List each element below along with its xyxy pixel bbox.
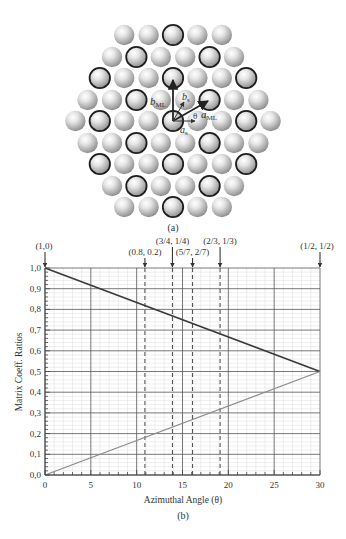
atom	[187, 25, 207, 45]
atom	[187, 68, 207, 88]
atom	[138, 111, 158, 131]
atom	[248, 133, 268, 153]
caption-a: (a)	[167, 222, 178, 234]
y-tick-label: 0,6	[30, 346, 42, 356]
y-tick-label: 0,9	[30, 284, 42, 294]
x-tick-label: 25	[270, 480, 280, 490]
atom	[102, 47, 122, 67]
y-tick-label: 0,5	[30, 367, 42, 377]
y-tick-label: 1,0	[30, 263, 42, 273]
x-axis-label: Azimuthal Angle (θ)	[144, 495, 222, 506]
y-tick-label: 0,4	[30, 387, 42, 397]
atom	[77, 90, 97, 110]
atom	[212, 197, 232, 217]
y-tick-labels: 0,00,10,20,30,40,50,60,70,80,91,0	[30, 263, 42, 480]
atom-marked	[126, 90, 146, 110]
y-tick-label: 0,3	[30, 408, 42, 418]
atom	[151, 133, 171, 153]
caption-b: (b)	[177, 510, 189, 522]
x-tick-label: 20	[224, 480, 234, 490]
y-tick-label: 0,0	[30, 470, 42, 480]
atom-marked	[90, 111, 110, 131]
atom	[138, 25, 158, 45]
label-theta: θ	[193, 111, 197, 121]
annotation-label: (5/7, 2/7)	[176, 247, 210, 257]
atom	[212, 68, 232, 88]
atom-marked	[126, 133, 146, 153]
atom	[151, 176, 171, 196]
atom	[187, 154, 207, 174]
atom	[248, 90, 268, 110]
atom	[138, 197, 158, 217]
atom	[175, 47, 195, 67]
y-tick-label: 0,1	[30, 449, 41, 459]
atom	[114, 197, 134, 217]
atom	[224, 47, 244, 67]
atom-marked	[199, 47, 219, 67]
atom-marked	[236, 111, 256, 131]
atom	[102, 176, 122, 196]
atom	[77, 133, 97, 153]
annotation-label: (1/2, 1/2)	[300, 241, 334, 251]
atom-marked	[236, 68, 256, 88]
atom	[114, 68, 134, 88]
atom	[187, 197, 207, 217]
annotation-label: (1,0)	[35, 241, 52, 251]
atom-marked	[236, 154, 256, 174]
x-tick-label: 10	[132, 480, 142, 490]
x-tick-label: 30	[316, 480, 326, 490]
y-tick-label: 0,7	[30, 325, 42, 335]
y-tick-label: 0,8	[30, 304, 42, 314]
x-tick-label: 15	[178, 480, 188, 490]
atom	[224, 176, 244, 196]
atom-marked	[90, 154, 110, 174]
atom	[114, 25, 134, 45]
x-tick-label: 0	[43, 480, 48, 490]
atom	[224, 90, 244, 110]
chart: 0,00,10,20,30,40,50,60,70,80,91,0 051015…	[14, 236, 334, 522]
atom	[212, 25, 232, 45]
atom	[212, 154, 232, 174]
atom-marked	[163, 25, 183, 45]
figure: bML bs θ aML as (a) 0,00,10,20,30,40,50,…	[0, 0, 346, 539]
atom	[114, 111, 134, 131]
atom-marked	[126, 176, 146, 196]
y-axis-label: Matrix Coeff. Ratios	[14, 332, 24, 411]
atom	[224, 133, 244, 153]
atom	[175, 176, 195, 196]
x-tick-labels: 051015202530	[43, 480, 325, 490]
atom	[114, 154, 134, 174]
atom	[102, 133, 122, 153]
atom-marked	[199, 176, 219, 196]
annotation-label: (3/4, 1/4)	[156, 236, 190, 246]
major-grid	[45, 268, 320, 475]
x-tick-label: 5	[89, 480, 94, 490]
atom-marked	[126, 47, 146, 67]
y-tick-label: 0,2	[30, 429, 41, 439]
atom	[138, 68, 158, 88]
atom-marked	[199, 133, 219, 153]
atom-marked	[163, 197, 183, 217]
atom	[65, 111, 85, 131]
atom	[260, 111, 280, 131]
atom	[151, 47, 171, 67]
atom	[138, 154, 158, 174]
top-annotations: (1,0)(0.8, 0.2)(3/4, 1/4)(5/7, 2/7)(2/3,…	[35, 236, 333, 267]
atom-marked	[90, 68, 110, 88]
atom-marked	[163, 154, 183, 174]
annotation-label: (2/3, 1/3)	[203, 236, 237, 246]
annotation-label: (0.8, 0.2)	[128, 247, 161, 257]
atom	[102, 90, 122, 110]
